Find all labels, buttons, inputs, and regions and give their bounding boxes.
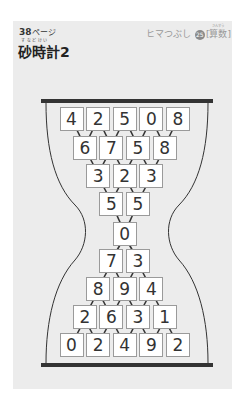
hourglass-bottom-bar xyxy=(41,363,213,367)
number-cell: 6 xyxy=(73,136,97,160)
number-cell: 7 xyxy=(99,249,123,273)
number-cell: 0 xyxy=(113,222,137,246)
number-cell: 3 xyxy=(126,249,150,273)
number-cell: 3 xyxy=(126,305,150,329)
number-cell: 0 xyxy=(60,333,84,357)
number-cell: 2 xyxy=(166,333,190,357)
number-cell: 5 xyxy=(113,107,137,131)
number-cell: 4 xyxy=(139,277,163,301)
number-cell: 2 xyxy=(86,333,110,357)
number-cell: 9 xyxy=(139,333,163,357)
number-cell: 8 xyxy=(166,107,190,131)
number-cell: 3 xyxy=(86,164,110,188)
number-cell: 4 xyxy=(113,333,137,357)
number-cell: 1 xyxy=(153,305,177,329)
number-cell: 5 xyxy=(126,192,150,216)
number-cell: 2 xyxy=(73,305,97,329)
hourglass-top-bar xyxy=(41,99,213,103)
number-cell: 0 xyxy=(139,107,163,131)
number-cell: 2 xyxy=(113,164,137,188)
number-cell: 7 xyxy=(99,136,123,160)
number-cell: 8 xyxy=(86,277,110,301)
number-cell: 5 xyxy=(126,136,150,160)
number-cell: 6 xyxy=(99,305,123,329)
number-cell: 2 xyxy=(86,107,110,131)
number-cell: 3 xyxy=(139,164,163,188)
number-cell: 5 xyxy=(99,192,123,216)
number-cell: 4 xyxy=(60,107,84,131)
number-cell: 9 xyxy=(113,277,137,301)
number-cell: 8 xyxy=(153,136,177,160)
